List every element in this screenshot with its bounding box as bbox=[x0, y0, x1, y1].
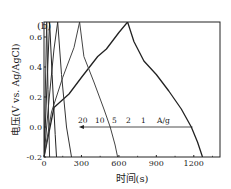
y-tick-label: 0.2 bbox=[29, 93, 42, 102]
y-tick-label: 0.0 bbox=[29, 123, 42, 132]
panel-label: (b) bbox=[37, 20, 51, 31]
current-density-label: 5 bbox=[112, 116, 117, 125]
x-tick-label: 300 bbox=[74, 159, 89, 168]
x-tick-label: 900 bbox=[149, 159, 164, 168]
x-axis-title: 时间(s) bbox=[116, 172, 149, 184]
current-density-label: 2 bbox=[126, 116, 131, 125]
plot-layer bbox=[44, 22, 203, 157]
x-tick-label: 1200 bbox=[184, 159, 204, 168]
y-axis-title: 电压(V vs. Ag/AgCl) bbox=[10, 44, 21, 137]
x-tick-label: 0 bbox=[41, 159, 46, 168]
y-tick-label: -0.2 bbox=[27, 153, 42, 162]
ticks-layer: 03006009001200-0.20.00.20.40.6 bbox=[27, 33, 213, 168]
current-density-label: 1 bbox=[141, 116, 146, 125]
plot-frame bbox=[44, 22, 220, 157]
y-tick-label: 0.6 bbox=[29, 33, 42, 42]
current-density-label: A/g bbox=[156, 116, 170, 125]
current-density-label: 20 bbox=[78, 116, 88, 125]
charge-discharge-chart: 03006009001200-0.20.00.20.40.6 (b) 时间(s)… bbox=[0, 0, 231, 189]
annotation: 2010521A/g bbox=[78, 116, 193, 129]
y-tick-label: 0.4 bbox=[29, 63, 42, 72]
current-density-label: 10 bbox=[95, 116, 105, 125]
x-tick-label: 600 bbox=[111, 159, 126, 168]
